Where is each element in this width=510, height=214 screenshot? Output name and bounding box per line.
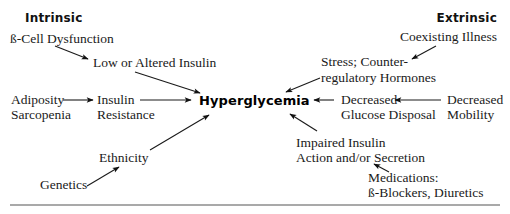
impaired-insulin-label: Impaired Insulin <box>296 135 386 150</box>
adiposity-sarcopenia-node: Adiposity Sarcopenia <box>11 92 71 122</box>
coexisting-illness-node: Coexisting Illness <box>400 29 497 44</box>
arrow-impaired-to-hyperglycemia <box>290 114 317 131</box>
insulin-resistance-node: Insulin Resistance <box>97 92 155 122</box>
resistance-label: Resistance <box>97 107 155 122</box>
action-secretion-label: Action and/or Secretion <box>296 150 425 165</box>
arrow-low-insulin-to-hyperglycemia <box>135 72 200 93</box>
decreased-label-2: Decreased <box>447 92 503 107</box>
blockers-diuretics-label: ß-Blockers, Diuretics <box>368 185 483 200</box>
sarcopenia-label: Sarcopenia <box>11 107 71 122</box>
low-altered-insulin-node: Low or Altered Insulin <box>93 55 217 70</box>
medications-label: Medications: <box>368 170 439 185</box>
hyperglycemia-diagram: Intrinsic Extrinsic Hyperglycemia ß-Cell… <box>0 0 510 214</box>
arrow-beta-to-low-insulin <box>55 46 88 59</box>
decreased-mobility-node: Decreased Mobility <box>447 92 503 122</box>
intrinsic-header: Intrinsic <box>25 11 83 25</box>
arrow-genetics-to-ethnicity <box>87 167 119 186</box>
extrinsic-header: Extrinsic <box>437 11 497 25</box>
insulin-label: Insulin <box>97 92 135 107</box>
decreased-glucose-disposal-node: Decreased Glucose Disposal <box>341 92 436 122</box>
medications-node: Medications: ß-Blockers, Diuretics <box>368 170 483 200</box>
genetics-node: Genetics <box>40 177 87 192</box>
adiposity-label: Adiposity <box>11 92 65 107</box>
stress-label: Stress; Counter- <box>321 54 409 69</box>
arrow-coexisting-to-stress <box>412 46 436 59</box>
beta-cell-dysfunction-node: ß-Cell Dysfunction <box>10 31 114 46</box>
ethnicity-node: Ethnicity <box>99 150 149 165</box>
arrow-ethnicity-to-hyperglycemia <box>150 115 209 150</box>
hyperglycemia-node: Hyperglycemia <box>199 93 310 108</box>
mobility-label: Mobility <box>447 107 495 122</box>
decreased-label: Decreased <box>341 92 397 107</box>
arrow-stress-to-hyperglycemia <box>286 78 320 92</box>
regulatory-hormones-label: regulatory Hormones <box>321 70 436 85</box>
stress-hormones-node: Stress; Counter- regulatory Hormones <box>321 54 436 85</box>
glucose-disposal-label: Glucose Disposal <box>341 107 436 122</box>
impaired-insulin-node: Impaired Insulin Action and/or Secretion <box>296 135 425 165</box>
